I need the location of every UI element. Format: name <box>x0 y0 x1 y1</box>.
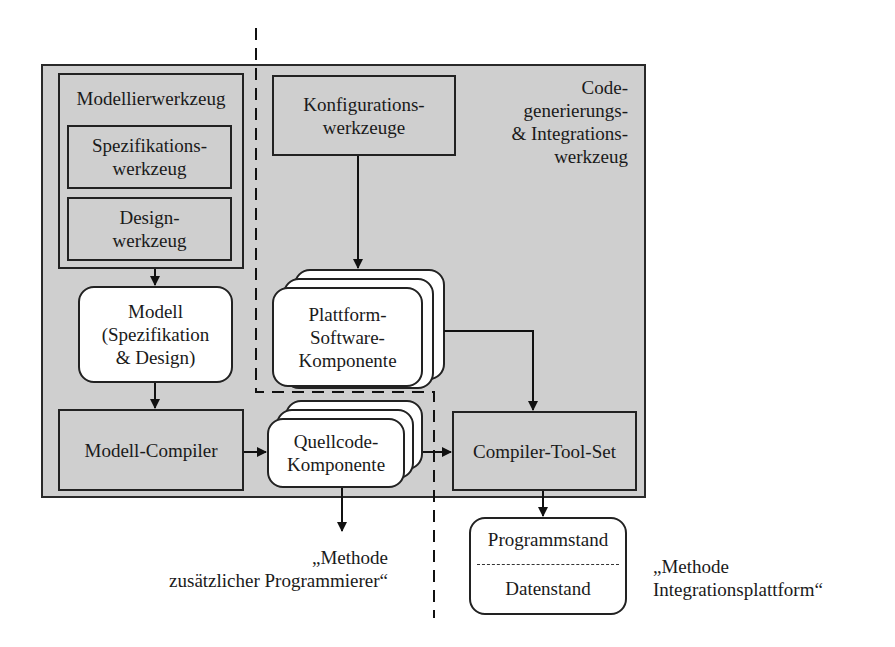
programmstand-label: Programmstand <box>471 528 625 551</box>
designwerkzeug-box[interactable]: Design- werkzeug <box>67 197 232 261</box>
spezifikation-line-2: werkzeug <box>113 157 187 180</box>
konfiguration-line-2: werkzeuge <box>323 116 405 139</box>
method-programmierer-line-1: „Methode <box>150 546 388 569</box>
method-programmierer-line-2: zusätzlicher Programmierer“ <box>150 569 388 592</box>
modell-compiler-box[interactable]: Modell-Compiler <box>58 409 244 491</box>
quellcode-line-1: Quellcode- <box>294 430 378 453</box>
datenstand-label: Datenstand <box>471 577 625 600</box>
panel-label-line-3: & Integrations- <box>460 122 628 145</box>
modellierwerkzeug-title: Modellierwerkzeug <box>60 88 242 110</box>
plattform-line-1: Plattform- <box>308 303 386 326</box>
method-integrationsplattform-line-2: Integrationsplattform“ <box>653 578 883 601</box>
plattform-line-2: Software- <box>310 326 385 349</box>
programmstand-datenstand-box[interactable]: Programmstand Datenstand <box>469 517 627 615</box>
modell-compiler-label: Modell-Compiler <box>85 439 218 462</box>
method-integrationsplattform-line-1: „Methode <box>653 555 883 578</box>
modell-line-2: (Spezifikation <box>102 323 210 346</box>
modell-line-3: & Design) <box>116 346 196 369</box>
compiler-tool-set-label: Compiler-Tool-Set <box>473 440 616 463</box>
plattform-line-3: Komponente <box>298 349 396 372</box>
quellcode-line-2: Komponente <box>287 453 385 476</box>
panel-label: Code- generierungs- & Integrations- werk… <box>460 76 628 168</box>
konfiguration-line-1: Konfigurations- <box>303 93 424 116</box>
method-integrationsplattform-label: „Methode Integrationsplattform“ <box>653 555 883 601</box>
modell-line-1: Modell <box>128 300 183 323</box>
panel-label-line-1: Code- <box>460 76 628 99</box>
plattform-software-komponente-box[interactable]: Plattform- Software- Komponente <box>272 287 423 387</box>
panel-label-line-4: werkzeug <box>460 145 628 168</box>
panel-label-line-2: generierungs- <box>460 99 628 122</box>
compiler-tool-set-box[interactable]: Compiler-Tool-Set <box>452 411 637 491</box>
konfigurationswerkzeuge-box[interactable]: Konfigurations- werkzeuge <box>272 75 456 156</box>
design-line-1: Design- <box>119 206 179 229</box>
modell-box[interactable]: Modell (Spezifikation & Design) <box>78 286 233 383</box>
method-programmierer-label: „Methode zusätzlicher Programmierer“ <box>150 546 388 592</box>
design-line-2: werkzeug <box>113 229 187 252</box>
spezifikationswerkzeug-box[interactable]: Spezifikations- werkzeug <box>67 125 232 189</box>
spezifikation-line-1: Spezifikations- <box>92 134 207 157</box>
quellcode-komponente-box[interactable]: Quellcode- Komponente <box>267 418 405 488</box>
divider-line <box>477 564 619 565</box>
